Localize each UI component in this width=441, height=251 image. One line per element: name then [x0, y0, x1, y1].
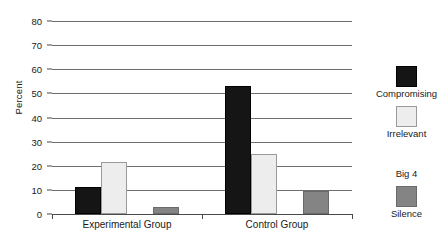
legend-entry-compromising[interactable]: Compromising	[372, 66, 441, 100]
chart-legend: CompromisingIrrelevantBig 4Silence	[372, 66, 441, 226]
legend-swatch-big-4	[396, 146, 417, 167]
x-axis-labels: Experimental GroupControl Group	[52, 219, 352, 239]
y-tick-label-20: 20	[31, 160, 42, 171]
y-tick-label-30: 30	[31, 136, 42, 147]
bar-control-group-compromising	[225, 86, 251, 214]
legend-label-compromising: Compromising	[372, 88, 441, 100]
y-tick-label-0: 0	[37, 209, 42, 220]
x-tick-mark-2	[352, 214, 353, 219]
bar-control-group-silence	[303, 191, 329, 214]
bar-experimental-group-compromising	[75, 187, 101, 214]
x-axis-label-experimental-group: Experimental Group	[83, 219, 172, 230]
legend-label-big-4: Big 4	[372, 168, 441, 180]
y-tick-label-80: 80	[31, 16, 42, 27]
y-tick-label-10: 10	[31, 184, 42, 195]
y-tick-label-60: 60	[31, 64, 42, 75]
bar-chart: Percent 01020304050607080 Experimental G…	[0, 0, 441, 251]
legend-entry-silence[interactable]: Silence	[372, 186, 441, 220]
bar-control-group-big-4	[277, 195, 303, 214]
legend-swatch-irrelevant	[396, 106, 417, 127]
legend-swatch-compromising	[396, 66, 417, 87]
y-tick-label-50: 50	[31, 88, 42, 99]
legend-label-silence: Silence	[372, 208, 441, 220]
bar-control-group-irrelevant	[251, 154, 277, 214]
legend-swatch-silence	[396, 186, 417, 207]
bar-experimental-group-big-4	[127, 69, 153, 214]
x-tick-mark-1	[202, 214, 203, 219]
legend-entry-big-4[interactable]: Big 4	[372, 146, 441, 180]
x-axis-label-control-group: Control Group	[246, 219, 309, 230]
x-tick-mark-0	[52, 214, 53, 219]
bar-experimental-group-irrelevant	[101, 162, 127, 214]
bars-layer	[52, 21, 352, 214]
legend-label-irrelevant: Irrelevant	[372, 128, 441, 140]
y-axis-ticks: 01020304050607080	[0, 21, 52, 214]
legend-entry-irrelevant[interactable]: Irrelevant	[372, 106, 441, 140]
bar-experimental-group-silence	[153, 207, 179, 214]
y-tick-label-40: 40	[31, 112, 42, 123]
y-tick-label-70: 70	[31, 40, 42, 51]
plot-area	[52, 21, 352, 214]
